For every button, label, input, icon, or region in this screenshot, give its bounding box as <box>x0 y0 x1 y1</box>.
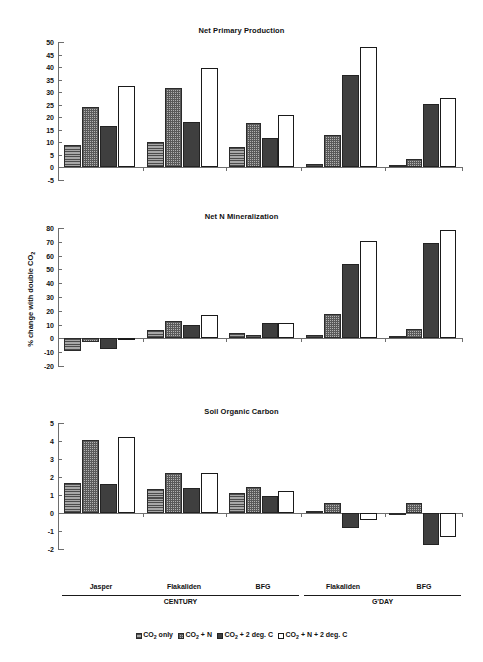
bar <box>278 491 294 513</box>
bar <box>165 88 183 167</box>
legend-swatch-icon <box>278 633 284 639</box>
y-axis-tick-label: -5 <box>48 177 54 184</box>
bar <box>246 487 262 513</box>
y-axis-tick-label: 10 <box>46 321 54 328</box>
bar <box>324 503 342 513</box>
category-label: BFG <box>256 583 271 590</box>
category-label: Flakaliden <box>167 583 201 590</box>
bar <box>183 325 201 339</box>
y-axis-tick <box>58 42 64 43</box>
bar <box>118 338 136 340</box>
bar <box>262 496 278 513</box>
bar <box>306 164 324 168</box>
y-axis-tick <box>58 549 64 550</box>
bar <box>406 329 422 338</box>
y-axis-tick <box>58 80 62 81</box>
bar <box>82 338 100 341</box>
y-axis-tick-label: 0 <box>50 335 54 342</box>
bar <box>147 489 165 513</box>
bar <box>201 473 219 513</box>
y-axis-tick-label: 70 <box>46 238 54 245</box>
bar <box>440 230 456 338</box>
y-axis-tick <box>58 477 62 478</box>
plot-area-soc: -2-1012345 <box>0 417 483 565</box>
bar <box>82 107 100 168</box>
x-axis-group-tick <box>462 338 463 342</box>
y-axis-tick-label: 60 <box>46 252 54 259</box>
y-axis-tick <box>58 352 62 353</box>
y-axis-tick-label: -2 <box>48 546 54 553</box>
chart-title-nmin: Net N Mineralization <box>0 197 483 222</box>
y-axis-tick <box>58 269 62 270</box>
bar <box>147 142 165 168</box>
bar <box>229 333 245 339</box>
category-axis: JasperFlakalidenBFGFlakalidenBFGCENTURYG… <box>0 583 483 623</box>
y-axis-tick-label: 50 <box>46 39 54 46</box>
x-axis-group-tick <box>143 338 144 342</box>
bar <box>342 75 360 167</box>
y-axis-tick <box>58 55 62 56</box>
x-axis-group-tick <box>226 513 227 517</box>
y-axis-tick <box>58 256 62 257</box>
bar <box>201 68 219 167</box>
y-axis-tick-label: 35 <box>46 76 54 83</box>
y-axis-tick-label: 30 <box>46 294 54 301</box>
bar <box>100 484 118 513</box>
y-axis-tick-label: 1 <box>50 492 54 499</box>
bar <box>360 47 378 168</box>
bar <box>406 159 422 167</box>
chart-title-npp: Net Primary Production <box>0 0 483 36</box>
bar <box>423 513 439 545</box>
bar <box>100 338 118 348</box>
x-axis-group-tick <box>226 167 227 171</box>
x-axis-group-tick <box>385 338 386 342</box>
y-axis-tick <box>58 311 62 312</box>
bar <box>165 473 183 513</box>
y-axis-tick-label: 2 <box>50 474 54 481</box>
model-group-label: G'DAY <box>372 598 393 605</box>
bar <box>229 493 245 513</box>
y-axis-tick <box>58 325 62 326</box>
y-axis-caption: % change with double CO2 <box>26 244 37 354</box>
bar <box>278 115 294 167</box>
x-axis-group-tick <box>143 167 144 171</box>
y-axis-tick-label: 5 <box>50 151 54 158</box>
bar <box>183 122 201 168</box>
y-axis-tick <box>58 297 62 298</box>
legend-label: CO2 + N <box>186 631 212 640</box>
plot-area-npp: -505101520253035404550 <box>0 36 483 196</box>
category-label: Flakaliden <box>326 583 360 590</box>
legend-item: CO2 + N <box>178 631 212 640</box>
y-axis-tick <box>58 155 62 156</box>
bar <box>147 330 165 338</box>
panel-soil-organic-carbon: Soil Organic Carbon -2-1012345 <box>0 394 483 594</box>
model-group-label: CENTURY <box>164 598 198 605</box>
y-axis-tick <box>58 117 62 118</box>
y-axis-tick-label: 40 <box>46 280 54 287</box>
y-axis-tick <box>58 366 64 367</box>
y-axis-tick-label: 0 <box>50 164 54 171</box>
bar <box>306 335 324 338</box>
y-axis-tick <box>58 92 62 93</box>
legend-label: CO2 + N + 2 deg. C <box>286 631 348 640</box>
y-axis-line <box>58 42 59 180</box>
bar <box>82 440 100 513</box>
bar <box>262 138 278 168</box>
x-axis-group-tick <box>385 513 386 517</box>
y-axis-tick-label: 5 <box>50 420 54 427</box>
y-axis-tick-label: -1 <box>48 528 54 535</box>
y-axis-tick-label: 4 <box>50 438 54 445</box>
legend-swatch-icon <box>217 633 223 639</box>
y-axis-tick <box>58 180 64 181</box>
x-axis-group-tick <box>385 167 386 171</box>
bar <box>324 135 342 168</box>
y-axis-tick <box>58 142 62 143</box>
x-axis-group-tick <box>301 167 302 171</box>
chart-title-soc: Soil Organic Carbon <box>0 394 483 417</box>
legend-label: CO2 + 2 deg. C <box>224 631 273 640</box>
y-axis-tick-label: 10 <box>46 139 54 146</box>
group-rule <box>304 595 461 596</box>
y-axis-tick <box>58 242 62 243</box>
x-axis-group-tick <box>301 513 302 517</box>
bar <box>423 104 439 167</box>
